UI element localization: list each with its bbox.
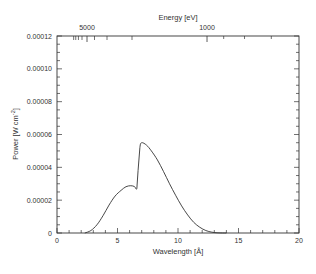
x-axis-title: Wavelength [Å] <box>153 247 204 256</box>
y-axis-title: Power [W cm-2] <box>10 108 20 160</box>
top-axis-title: Energy [eV] <box>158 13 197 22</box>
x-tick-label: 10 <box>174 237 182 244</box>
x-tick-label: 20 <box>295 237 303 244</box>
y-tick-label: 0.00010 <box>27 65 52 72</box>
y-tick-label: 0.00002 <box>27 197 52 204</box>
power-curve <box>85 143 227 233</box>
top-energy-axis-ticks: 50001000 <box>74 24 272 42</box>
y-tick-label: 0.00006 <box>27 131 52 138</box>
plot-frame <box>57 36 299 233</box>
top-tick-label: 1000 <box>199 24 215 31</box>
x-tick-label: 15 <box>235 237 243 244</box>
y-axis-ticks: 00.000020.000040.000060.000080.000100.00… <box>27 33 299 237</box>
y-tick-label: 0 <box>48 230 52 237</box>
x-axis-ticks: 05101520 <box>55 228 303 244</box>
top-tick-label: 5000 <box>79 24 95 31</box>
chart: 00.000020.000040.000060.000080.000100.00… <box>0 0 316 274</box>
x-tick-label: 0 <box>55 237 59 244</box>
y-tick-label: 0.00012 <box>27 33 52 40</box>
y-tick-label: 0.00004 <box>27 164 52 171</box>
x-tick-label: 5 <box>116 237 120 244</box>
y-tick-label: 0.00008 <box>27 98 52 105</box>
